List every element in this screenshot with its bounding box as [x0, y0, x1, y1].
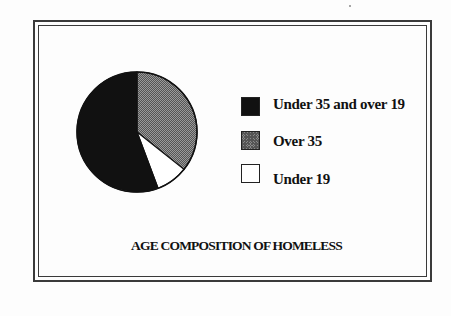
legend-label: Under 35 and over 19 — [273, 96, 405, 113]
legend-label: Over 35 — [273, 133, 322, 150]
legend-swatch-black — [241, 97, 260, 116]
legend-swatch-white — [241, 164, 260, 183]
pie-chart — [75, 70, 199, 194]
scan-speck — [349, 5, 351, 7]
chart-title: AGE COMPOSITION OF HOMELESS — [0, 238, 451, 254]
legend-swatch-gray — [241, 131, 260, 150]
legend-label: Under 19 — [273, 171, 330, 188]
